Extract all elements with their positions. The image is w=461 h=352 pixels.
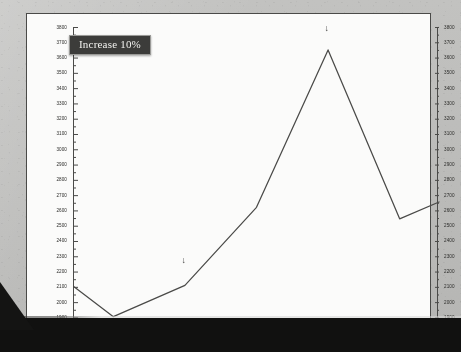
y-axis-right-tick-label: 2200 <box>444 269 455 274</box>
y-axis-left-tick-label: 3000 <box>33 147 67 152</box>
arrow-1997-icon: ↓ <box>181 256 186 265</box>
y-axis-right-tick-label: 3200 <box>444 116 455 121</box>
y-axis-right-tick-label: 3700 <box>444 40 455 45</box>
y-axis-left-tick-label: 3800 <box>33 25 67 30</box>
data-line-layer <box>74 27 439 322</box>
y-axis-left-tick-label: 3300 <box>33 101 67 106</box>
scan-band-edge <box>0 316 461 318</box>
y-axis-right-tick-label: 2800 <box>444 177 455 182</box>
y-axis-left-tick-label: 2200 <box>33 269 67 274</box>
y-axis-right-tick-label: 3300 <box>444 101 455 106</box>
y-axis-right-tick-label: 3500 <box>444 70 455 75</box>
arrow-1999-icon: ↓ <box>325 24 330 33</box>
y-axis-left-tick-label: 2700 <box>33 193 67 198</box>
scan-black-band <box>0 318 461 352</box>
y-axis-right-tick-label: 3600 <box>444 55 455 60</box>
y-axis-left-tick-label: 3400 <box>33 86 67 91</box>
y-axis-right-tick-label: 2000 <box>444 300 455 305</box>
y-axis-right-tick-label: 2700 <box>444 193 455 198</box>
y-axis-right-tick-label: 2900 <box>444 162 455 167</box>
plot-area[interactable] <box>73 27 438 322</box>
y-axis-right-tick-label: 2600 <box>444 208 455 213</box>
data-line-value <box>74 50 439 317</box>
y-axis-right-tick-label: 3100 <box>444 131 455 136</box>
y-axis-left-tick-label: 2800 <box>33 177 67 182</box>
y-axis-left-tick-label: 3500 <box>33 70 67 75</box>
y-axis-left-tick-label: 3600 <box>33 55 67 60</box>
callout-increase-badge: Increase 10% <box>69 35 151 55</box>
y-axis-right-tick-label: 3000 <box>444 147 455 152</box>
y-axis-left-tick-label: 2500 <box>33 223 67 228</box>
callout-label: Increase 10% <box>79 38 141 50</box>
y-axis-left-tick-label: 2100 <box>33 284 67 289</box>
y-axis-left-tick-label: 2300 <box>33 254 67 259</box>
y-axis-left-tick-label: 3100 <box>33 131 67 136</box>
y-axis-left-tick-label: 3700 <box>33 40 67 45</box>
y-axis-right-tick-label: 3800 <box>444 25 455 30</box>
y-axis-left-tick-label: 2000 <box>33 300 67 305</box>
y-axis-right-tick-label: 2300 <box>444 254 455 259</box>
y-axis-right-tick-label: 3400 <box>444 86 455 91</box>
y-axis-left-tick-label: 3200 <box>33 116 67 121</box>
y-axis-right-tick-label: 2400 <box>444 238 455 243</box>
y-axis-right-tick-label: 2500 <box>444 223 455 228</box>
y-axis-right-tick-label: 2100 <box>444 284 455 289</box>
y-axis-left-tick-label: 2900 <box>33 162 67 167</box>
chart-frame: 1900200021002200230024002500260027002800… <box>26 13 431 325</box>
y-axis-left-tick-label: 2600 <box>33 208 67 213</box>
y-axis-left-tick-label: 2400 <box>33 238 67 243</box>
